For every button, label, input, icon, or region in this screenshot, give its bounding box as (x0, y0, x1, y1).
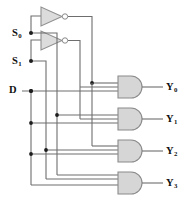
output-label-y3: Y3 (166, 178, 177, 189)
and-gate-y0 (29, 76, 163, 98)
circuit-schematic (0, 0, 187, 214)
junction-d-y1 (29, 121, 33, 125)
wire-s1-bar-bus (68, 41, 80, 88)
and-gate-y1 (29, 87, 163, 130)
junction-s0-y1 (55, 113, 59, 117)
wire-d-bus (22, 91, 31, 185)
input-label-s0: S0 (12, 28, 21, 39)
wire-s1-bus (31, 61, 46, 179)
not-gate-s0 (31, 7, 68, 33)
input-label-d: D (9, 85, 17, 96)
not-gate-s1 (31, 31, 68, 61)
output-label-y0: Y0 (166, 82, 177, 93)
input-label-s1: S1 (12, 56, 21, 67)
junction-s1-y2 (44, 148, 48, 152)
output-label-y2: Y2 (166, 146, 177, 157)
junction-d-y2 (29, 152, 33, 156)
demultiplexer-figure: S0 S1 D Y0 Y1 Y2 Y3 (0, 0, 187, 214)
and-gate-y3 (31, 119, 163, 194)
junction-s0-input (29, 31, 33, 35)
output-label-y1: Y1 (166, 114, 177, 125)
junction-s1-input (29, 59, 33, 63)
junction-d-input (29, 89, 33, 93)
